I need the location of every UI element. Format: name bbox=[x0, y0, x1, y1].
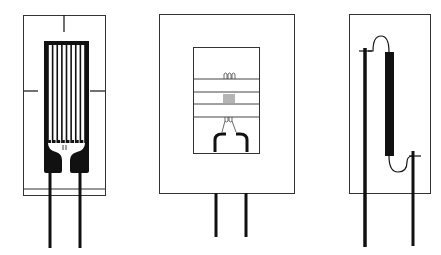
grid-end-loop bbox=[76, 140, 79, 143]
film-grid-bottom bbox=[222, 117, 236, 132]
semiconductor-bar bbox=[385, 52, 394, 156]
thin-film-gauge bbox=[160, 15, 295, 238]
connecting-wire-bottom bbox=[389, 156, 413, 172]
grid-end-loop bbox=[62, 140, 65, 143]
grid-end-loop bbox=[67, 140, 70, 143]
grid-end-loop bbox=[58, 140, 61, 143]
strain-gauge-diagram bbox=[0, 0, 441, 255]
thin-film-window bbox=[194, 48, 260, 154]
grid-end-loop bbox=[53, 140, 56, 143]
semiconductor-gauge bbox=[350, 15, 431, 248]
connecting-wire-top bbox=[368, 36, 389, 52]
foil-grid bbox=[44, 41, 89, 150]
film-grid-top bbox=[224, 73, 235, 79]
film-connector bbox=[215, 134, 226, 152]
film-grid-middle bbox=[224, 94, 234, 103]
foil-gauge bbox=[24, 15, 106, 248]
film-connector bbox=[236, 134, 247, 152]
grid-end-loop bbox=[48, 140, 51, 143]
grid-end-loop bbox=[81, 140, 84, 143]
grid-end-loop bbox=[72, 140, 75, 143]
solder-tab-right bbox=[70, 41, 89, 173]
